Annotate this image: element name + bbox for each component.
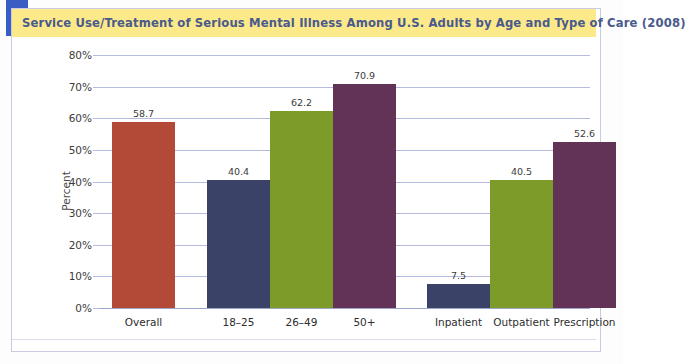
x-tick-slot: Overall	[112, 55, 175, 308]
x-axis-tick-label: Overall	[125, 316, 163, 328]
bar-chart: Percent 0%10%20%30%40%50%60%70%80%58.7Ov…	[12, 37, 596, 351]
y-axis-tick-label: 10%	[69, 270, 92, 282]
plot-area: 0%10%20%30%40%50%60%70%80%58.7Overall40.…	[100, 55, 590, 308]
x-axis-tick-label: 26–49	[286, 316, 318, 328]
y-axis-tick-mark	[93, 245, 100, 246]
x-tick-slot: 26–49	[270, 55, 333, 308]
gridline	[100, 308, 590, 309]
y-axis-tick-mark	[93, 87, 100, 88]
x-axis-tick-label: 50+	[353, 316, 375, 328]
chart-title-banner: Service Use/Treatment of Serious Mental …	[12, 9, 596, 37]
y-axis-tick-label: 70%	[69, 81, 92, 93]
x-tick-slot: 18–25	[207, 55, 270, 308]
footer-rule	[12, 339, 596, 340]
y-axis-tick-label: 60%	[69, 112, 92, 124]
y-axis-tick-label: 40%	[69, 176, 92, 188]
page-title: Service Use/Treatment of Serious Mental …	[22, 16, 686, 30]
y-axis-tick-label: 50%	[69, 144, 92, 156]
x-axis-tick-label: Prescription	[554, 316, 616, 328]
x-axis-tick-label: 18–25	[223, 316, 255, 328]
y-axis-tick-mark	[93, 213, 100, 214]
y-axis-tick-label: 0%	[75, 302, 92, 314]
y-axis-tick-mark	[93, 182, 100, 183]
y-axis-tick-mark	[93, 276, 100, 277]
x-axis-tick-label: Outpatient	[493, 316, 549, 328]
x-tick-slot: Outpatient	[490, 55, 553, 308]
x-tick-slot: 50+	[333, 55, 396, 308]
y-axis-tick-label: 30%	[69, 207, 92, 219]
y-axis-tick-mark	[93, 118, 100, 119]
x-axis-tick-label: Inpatient	[435, 316, 482, 328]
y-axis-tick-label: 80%	[69, 49, 92, 61]
y-axis-tick-mark	[93, 308, 100, 309]
y-axis-tick-label: 20%	[69, 239, 92, 251]
y-axis-tick-mark	[93, 150, 100, 151]
y-axis-tick-mark	[93, 55, 100, 56]
x-tick-slot: Prescription	[553, 55, 616, 308]
x-tick-slot: Inpatient	[427, 55, 490, 308]
